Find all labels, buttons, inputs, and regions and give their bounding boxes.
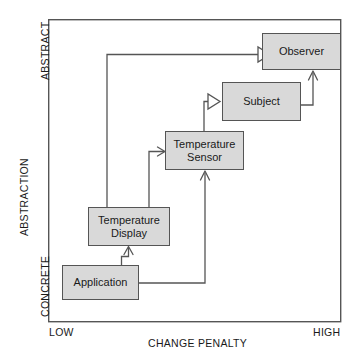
node-temperature-sensor-label: Temperature Sensor [174, 138, 236, 164]
y-axis-top-label: ABSTRACT [39, 22, 51, 80]
node-temperature-display-label: Temperature Display [98, 214, 160, 240]
node-temperature-display[interactable]: Temperature Display [88, 207, 170, 246]
x-axis-right-label: HIGH [313, 326, 340, 338]
connector-application-to-display [122, 247, 134, 267]
node-temperature-sensor[interactable]: Temperature Sensor [165, 131, 244, 170]
connector-display-to-sensor [149, 147, 165, 207]
node-application[interactable]: Application [62, 265, 139, 300]
diagram-canvas: Observer Subject Temperature Sensor Temp… [0, 0, 360, 355]
x-axis-left-label: LOW [49, 326, 74, 338]
y-axis-label: ABSTRACTION [18, 158, 30, 236]
connector-display-to-observer [107, 47, 270, 207]
node-application-label: Application [74, 276, 128, 289]
hollow-triangle-arrowhead [208, 94, 220, 109]
node-subject[interactable]: Subject [222, 82, 301, 121]
node-subject-label: Subject [243, 95, 280, 108]
node-observer-label: Observer [279, 45, 324, 58]
x-axis-label: CHANGE PENALTY [148, 337, 247, 349]
y-axis-bottom-label: CONCRETE [39, 256, 51, 317]
connector-subject-to-observer [301, 71, 318, 105]
node-observer[interactable]: Observer [262, 33, 341, 70]
connector-sensor-to-subject [204, 94, 220, 131]
